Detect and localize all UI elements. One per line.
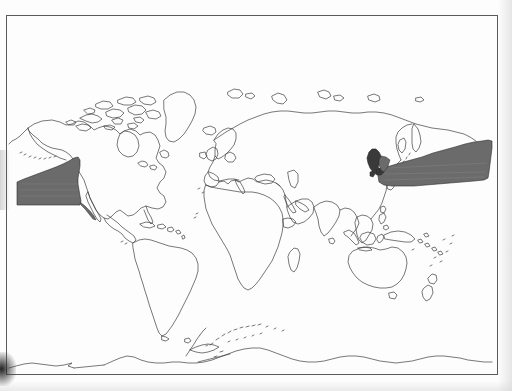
world-map-svg <box>0 0 512 391</box>
map-figure <box>0 0 512 391</box>
